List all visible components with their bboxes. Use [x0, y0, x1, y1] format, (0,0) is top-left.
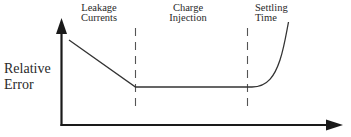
x-axis	[61, 120, 344, 131]
diagram-canvas	[0, 0, 351, 137]
x-axis-arrowhead-icon	[326, 120, 343, 131]
relative-error-curve	[69, 22, 289, 87]
y-axis-arrowhead-icon	[56, 18, 67, 34]
y-axis	[56, 18, 67, 126]
